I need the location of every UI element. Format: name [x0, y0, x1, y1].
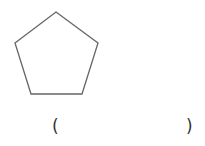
answer-close-paren: ) [186, 116, 193, 136]
answer-open-paren: ( [52, 116, 59, 136]
pentagon [15, 12, 98, 94]
pentagon-figure [0, 0, 205, 146]
